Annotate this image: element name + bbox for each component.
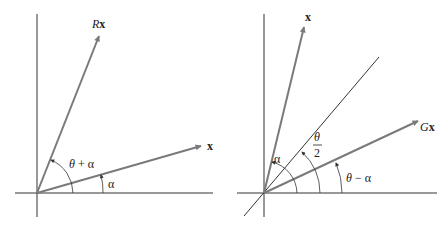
label-theta-minus-alpha: θ − α (346, 171, 372, 185)
label-theta-plus-alpha: θ + α (69, 157, 95, 171)
label-half-theta-denominator: 2 (314, 146, 320, 160)
angle-arc-alpha (101, 175, 103, 193)
vector-x-arrow (37, 146, 201, 193)
label-alpha-right: α (274, 152, 281, 166)
angle-arc-theta-minus-alpha (336, 163, 342, 193)
label-x: x (207, 139, 213, 153)
right-figure-reflection: x Gx α θ 2 θ − α (237, 10, 437, 217)
label-alpha: α (108, 177, 115, 191)
reflection-rotation-diagram: Rx x θ + α α x Gx α θ 2 θ − α (0, 0, 448, 227)
label-x-right: x (305, 10, 311, 24)
label-half-theta-numerator: θ (314, 130, 320, 144)
left-figure-rotation: Rx x θ + α α (15, 14, 213, 217)
label-gx: Gx (420, 120, 435, 134)
label-rx: Rx (91, 17, 105, 31)
